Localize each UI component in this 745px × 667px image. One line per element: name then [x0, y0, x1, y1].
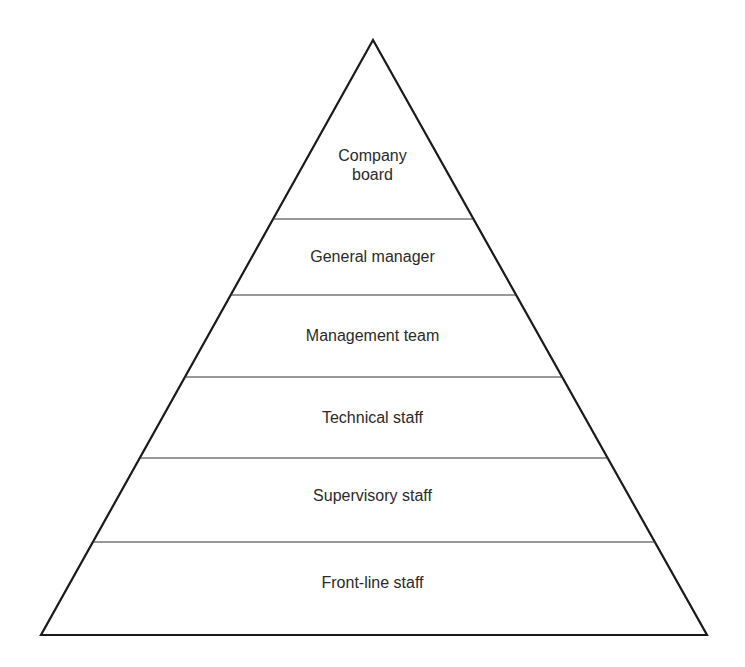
- level-label-company-board: Company board: [0, 146, 745, 184]
- level-label-line: Company: [0, 146, 745, 165]
- level-label-line: General manager: [0, 247, 745, 266]
- level-label-line: Management team: [0, 326, 745, 345]
- level-label-line: Front-line staff: [0, 573, 745, 592]
- level-label-supervisory-staff: Supervisory staff: [0, 486, 745, 505]
- level-label-general-manager: General manager: [0, 247, 745, 266]
- level-label-management-team: Management team: [0, 326, 745, 345]
- level-label-line: Technical staff: [0, 408, 745, 427]
- level-label-line: board: [0, 165, 745, 184]
- level-label-technical-staff: Technical staff: [0, 408, 745, 427]
- level-label-line: Supervisory staff: [0, 486, 745, 505]
- level-label-front-line-staff: Front-line staff: [0, 573, 745, 592]
